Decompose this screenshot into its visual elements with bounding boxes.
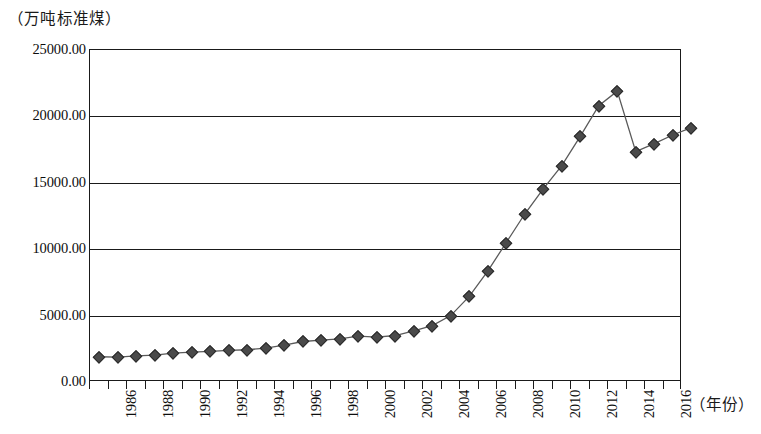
x-axis-tick xyxy=(274,381,275,389)
y-axis-tick-label: 5000.00 xyxy=(0,306,86,323)
x-axis-tick-labels: 1986198819901992199419961998200020022004… xyxy=(89,390,681,434)
x-axis-tick xyxy=(237,381,238,389)
x-axis-unit-label: （年份） xyxy=(690,392,754,414)
y-axis-tick-label: 20000.00 xyxy=(0,107,86,124)
x-axis-tick xyxy=(293,381,294,389)
x-axis-tick xyxy=(478,381,479,389)
x-axis-tick xyxy=(330,381,331,389)
plot-area xyxy=(89,49,681,381)
x-axis-tick xyxy=(126,381,127,389)
x-axis-tick-label: 2012 xyxy=(604,390,621,418)
x-axis-tick-label: 1992 xyxy=(234,390,251,418)
x-axis-tick-label: 2010 xyxy=(567,390,584,418)
y-axis-tick-label: 10000.00 xyxy=(0,240,86,257)
series-line-layer xyxy=(90,50,682,382)
x-axis-tick-label: 2008 xyxy=(530,390,547,418)
x-axis-tick xyxy=(607,381,608,389)
y-axis-tick-label: 25000.00 xyxy=(0,41,86,58)
x-axis-tick xyxy=(404,381,405,389)
x-axis-tick xyxy=(311,381,312,389)
x-axis-tick xyxy=(182,381,183,389)
x-axis-ticks xyxy=(89,381,681,390)
chart-figure: （万吨标准煤） 0.005000.0010000.0015000.0020000… xyxy=(0,0,761,434)
x-axis-tick xyxy=(570,381,571,389)
x-axis-tick-label: 1986 xyxy=(123,390,140,418)
x-axis-tick xyxy=(348,381,349,389)
x-axis-tick-label: 1990 xyxy=(197,390,214,418)
x-axis-tick-label: 2006 xyxy=(493,390,510,418)
data-point-marker xyxy=(685,122,697,134)
y-axis-tick-label: 15000.00 xyxy=(0,173,86,190)
x-axis-tick xyxy=(589,381,590,389)
x-axis-tick xyxy=(515,381,516,389)
x-axis-tick-label: 1998 xyxy=(345,390,362,418)
x-axis-tick xyxy=(533,381,534,389)
y-axis-unit-label: （万吨标准煤） xyxy=(8,6,121,28)
x-axis-tick xyxy=(663,381,664,389)
series-polyline xyxy=(99,91,691,357)
x-axis-tick-label: 1994 xyxy=(271,390,288,418)
y-axis-tick-label: 0.00 xyxy=(0,373,86,390)
x-axis-tick-label: 2014 xyxy=(641,390,658,418)
x-axis-tick xyxy=(459,381,460,389)
x-axis-tick-label: 2004 xyxy=(456,390,473,418)
x-axis-tick-label: 1988 xyxy=(160,390,177,418)
x-axis-tick xyxy=(163,381,164,389)
x-axis-tick xyxy=(200,381,201,389)
y-axis-tick-labels: 0.005000.0010000.0015000.0020000.0025000… xyxy=(0,49,86,381)
x-axis-tick xyxy=(385,381,386,389)
x-axis-tick xyxy=(145,381,146,389)
x-axis-tick xyxy=(626,381,627,389)
x-axis-tick xyxy=(89,381,90,389)
x-axis-tick xyxy=(644,381,645,389)
x-axis-tick xyxy=(552,381,553,389)
x-axis-tick-label: 2000 xyxy=(382,390,399,418)
x-axis-tick xyxy=(108,381,109,389)
x-axis-tick xyxy=(496,381,497,389)
x-axis-tick-label: 1996 xyxy=(308,390,325,418)
x-axis-tick-label: 2002 xyxy=(419,390,436,418)
x-axis-tick xyxy=(680,381,681,389)
x-axis-tick xyxy=(256,381,257,389)
x-axis-tick xyxy=(441,381,442,389)
x-axis-tick xyxy=(422,381,423,389)
x-axis-tick xyxy=(219,381,220,389)
x-axis-tick xyxy=(367,381,368,389)
